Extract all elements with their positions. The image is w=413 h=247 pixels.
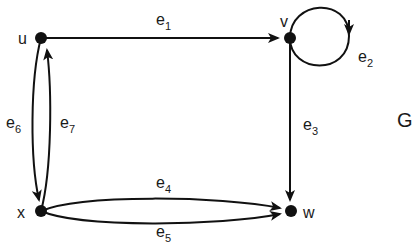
graph-name-label: G xyxy=(397,109,413,131)
node-x xyxy=(35,205,47,217)
edge-e4 xyxy=(41,199,280,211)
edge-e6 xyxy=(32,38,41,200)
edge-label-e2: e2 xyxy=(358,48,373,69)
node-w xyxy=(285,205,297,217)
edge-label-e5: e5 xyxy=(156,223,171,244)
edge-e5 xyxy=(41,211,280,223)
edge-label-e7: e7 xyxy=(60,114,75,135)
node-u xyxy=(35,32,47,44)
node-v xyxy=(284,32,296,44)
edge-label-e4: e4 xyxy=(156,174,171,195)
node-label-x: x xyxy=(17,204,25,221)
node-label-v: v xyxy=(280,13,288,30)
edge-e7 xyxy=(41,50,50,211)
edge-e2 xyxy=(290,8,349,66)
edge-label-e3: e3 xyxy=(303,116,318,137)
node-label-u: u xyxy=(18,30,27,47)
edge-label-e1: e1 xyxy=(156,11,171,32)
node-label-w: w xyxy=(302,204,315,221)
edge-label-e6: e6 xyxy=(6,114,21,135)
graph-diagram: u v w x e1 e2 e3 e4 e5 e6 e7 G xyxy=(0,0,413,247)
